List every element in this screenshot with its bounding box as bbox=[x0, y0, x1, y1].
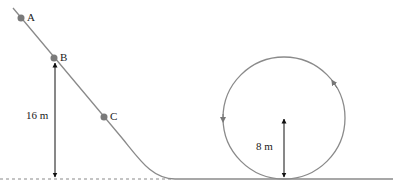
loop-direction-arrow-right bbox=[333, 82, 337, 88]
ramp-height-label: 16 m bbox=[26, 109, 49, 121]
point-a-dot bbox=[18, 15, 25, 22]
loop-height-label: 8 m bbox=[256, 140, 273, 152]
point-b-dot bbox=[51, 55, 58, 62]
point-c-dot bbox=[101, 114, 108, 121]
roller-coaster-diagram: A B C 16 m 8 m bbox=[0, 0, 393, 187]
point-b-label: B bbox=[60, 51, 67, 63]
point-c-label: C bbox=[110, 110, 117, 122]
point-a-label: A bbox=[27, 11, 35, 23]
ramp-track bbox=[13, 8, 393, 179]
